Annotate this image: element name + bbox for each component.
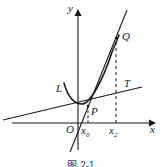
tangent-label-T: T <box>124 78 130 89</box>
secant-line-PQ <box>70 10 127 152</box>
point-Q-marker <box>116 37 119 40</box>
figure-caption: 图 2-1 <box>0 157 162 167</box>
tangent-line-T <box>3 87 142 120</box>
point-label-Q: Q <box>122 31 130 42</box>
tick-label-x2: x2 <box>109 125 117 139</box>
x-axis-label: x <box>150 124 155 135</box>
tick-label-x0: x0 <box>81 125 89 139</box>
origin-label: O <box>66 124 74 135</box>
curve-label-L: L <box>56 83 62 94</box>
point-P-marker <box>87 105 90 108</box>
curve-L <box>64 35 119 104</box>
tick-label-x2-sub: 2 <box>114 131 118 139</box>
point-label-P: P <box>91 106 98 117</box>
figure-container: y x O L T P Q x0 x2 图 2-1 <box>0 0 162 167</box>
tick-label-x0-sub: 0 <box>86 131 90 139</box>
y-axis-label: y <box>68 3 73 14</box>
coordinate-diagram <box>0 0 162 167</box>
